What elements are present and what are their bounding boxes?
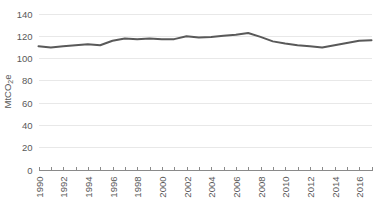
x-axis-tick-label: 1992 xyxy=(58,177,69,198)
x-axis-tick-label: 2002 xyxy=(182,177,193,198)
y-axis-tick-label: 0 xyxy=(27,165,32,176)
y-axis-tick-label: 40 xyxy=(22,120,33,131)
x-axis-tickmarks xyxy=(40,167,373,171)
x-axis-tick-label: 2008 xyxy=(256,177,267,198)
y-axis-tick-label: 120 xyxy=(17,31,33,42)
x-axis-tick-label: 2012 xyxy=(305,177,316,198)
x-axis-tick-label: 1996 xyxy=(108,177,119,198)
series-line-emissions xyxy=(39,33,372,47)
x-axis-tick-label: 2004 xyxy=(206,177,217,198)
y-axis-tick-label: 140 xyxy=(17,9,33,20)
x-axis-tick-label: 2000 xyxy=(157,177,168,198)
x-axis-tick-label: 2006 xyxy=(231,177,242,198)
y-axis-title-text: MtCO2e xyxy=(2,74,14,108)
y-axis-tick-label: 20 xyxy=(22,142,33,153)
chart-container: 020406080100120140 199019921994199619982… xyxy=(0,0,377,212)
x-axis-tick-label: 1998 xyxy=(132,177,143,198)
gridlines-group xyxy=(39,15,372,148)
x-axis-tick-labels: 1990199219941996199820002002200420062008… xyxy=(34,177,365,198)
y-axis-tick-labels: 020406080100120140 xyxy=(17,9,33,176)
y-axis-tick-label: 80 xyxy=(22,75,33,86)
y-axis-tick-label: 60 xyxy=(22,98,33,109)
x-axis-tick-label: 1994 xyxy=(83,177,94,198)
x-axis-tick-label: 2016 xyxy=(354,177,365,198)
x-axis-tick-label: 2014 xyxy=(330,177,341,198)
line-chart: 020406080100120140 199019921994199619982… xyxy=(0,0,377,212)
x-axis-tick-label: 2010 xyxy=(280,177,291,198)
y-axis-tick-label: 100 xyxy=(17,53,33,64)
y-axis-title: MtCO2e xyxy=(2,74,14,108)
x-axis-tick-label: 1990 xyxy=(34,177,45,198)
